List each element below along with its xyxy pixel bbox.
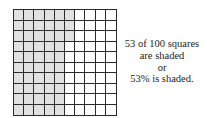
shaded-square [65,10,75,21]
unshaded-square [85,21,95,32]
unshaded-square [65,42,75,53]
unshaded-square [96,105,106,116]
shaded-square [65,21,75,32]
shaded-square [45,73,55,84]
unshaded-square [65,94,75,105]
shaded-square [45,105,55,116]
unshaded-square [96,21,106,32]
unshaded-square [106,31,116,42]
shaded-square [55,73,65,84]
shaded-square [24,10,34,21]
unshaded-square [85,42,95,53]
unshaded-square [65,63,75,74]
unshaded-square [106,73,116,84]
shaded-square [45,84,55,95]
unshaded-square [96,42,106,53]
caption-line-3: or [116,62,207,74]
unshaded-square [106,21,116,32]
unshaded-square [65,105,75,116]
unshaded-square [75,84,85,95]
unshaded-square [85,105,95,116]
unshaded-square [96,52,106,63]
unshaded-square [106,105,116,116]
shaded-square [55,10,65,21]
unshaded-square [75,52,85,63]
shaded-square [55,52,65,63]
shaded-square [55,84,65,95]
shaded-square [14,94,24,105]
unshaded-square [106,10,116,21]
unshaded-square [96,63,106,74]
unshaded-square [96,10,106,21]
shaded-square [14,73,24,84]
caption-line-2: are shaded [116,50,207,62]
shaded-square [34,10,44,21]
shaded-square [14,31,24,42]
shaded-square [34,21,44,32]
unshaded-square [85,52,95,63]
unshaded-square [65,73,75,84]
shaded-square [34,42,44,53]
shaded-square [14,63,24,74]
shaded-square [14,105,24,116]
shaded-square [34,31,44,42]
shaded-square [24,21,34,32]
unshaded-square [96,84,106,95]
unshaded-square [75,31,85,42]
shaded-square [45,21,55,32]
unshaded-square [106,42,116,53]
unshaded-square [75,10,85,21]
shaded-square [14,21,24,32]
shaded-square [34,52,44,63]
unshaded-square [75,94,85,105]
caption: 53 of 100 squares are shaded or 53% is s… [116,38,207,85]
unshaded-square [106,63,116,74]
shaded-square [45,10,55,21]
shaded-square [55,21,65,32]
shaded-square [14,10,24,21]
shaded-square [55,63,65,74]
unshaded-square [85,10,95,21]
shaded-square [55,105,65,116]
unshaded-square [75,73,85,84]
shaded-square [34,63,44,74]
shaded-square [14,84,24,95]
unshaded-square [75,63,85,74]
shaded-square [45,31,55,42]
shaded-square [24,63,34,74]
unshaded-square [96,31,106,42]
unshaded-square [106,84,116,95]
shaded-square [34,73,44,84]
shaded-square [24,84,34,95]
shaded-square [34,84,44,95]
unshaded-square [85,73,95,84]
unshaded-square [96,94,106,105]
unshaded-square [85,94,95,105]
shaded-square [24,42,34,53]
unshaded-square [65,52,75,63]
shaded-square [45,94,55,105]
shaded-square [55,94,65,105]
unshaded-square [85,63,95,74]
caption-line-1: 53 of 100 squares [116,38,207,50]
shaded-square [24,73,34,84]
unshaded-square [85,31,95,42]
shaded-square [65,31,75,42]
shaded-square [45,42,55,53]
shaded-square [55,42,65,53]
shaded-square [14,42,24,53]
unshaded-square [75,21,85,32]
unshaded-square [106,52,116,63]
shaded-square [24,52,34,63]
unshaded-square [106,94,116,105]
unshaded-square [75,105,85,116]
shaded-square [55,31,65,42]
shaded-square [34,94,44,105]
unshaded-square [85,84,95,95]
unshaded-square [96,73,106,84]
shaded-square [45,52,55,63]
shaded-square [45,63,55,74]
shaded-square [34,105,44,116]
unshaded-square [75,42,85,53]
shaded-square [24,94,34,105]
